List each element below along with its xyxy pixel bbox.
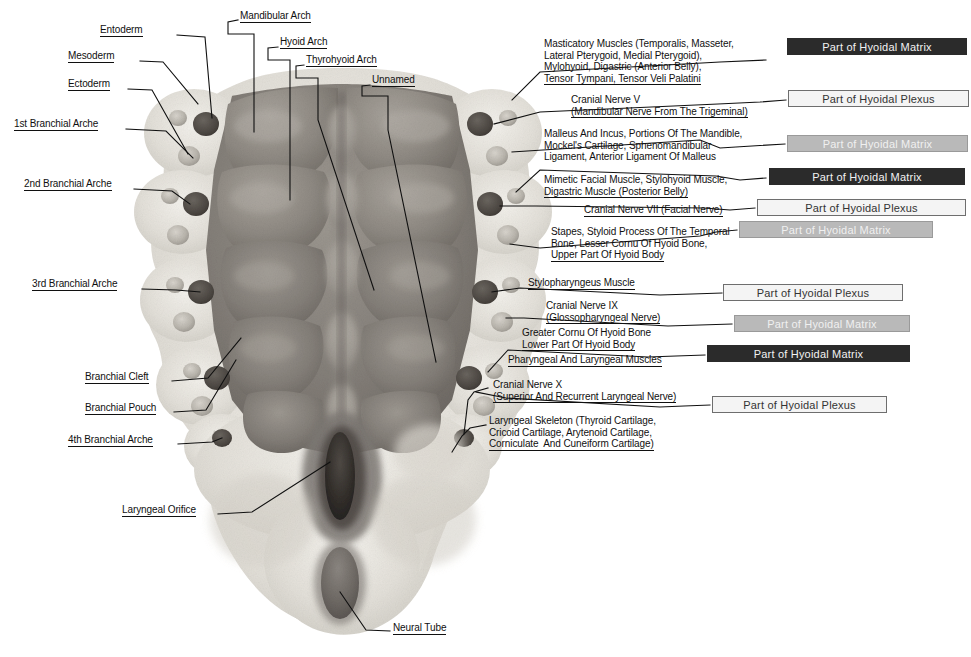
label-line: Upper Part Of Hyoid Body — [551, 249, 664, 262]
badge-dark-badge-1: Part of Hyoidal Matrix — [787, 38, 967, 55]
label-arch-4: 4th Branchial Arche — [68, 434, 153, 447]
label-stapes-styloid: Stapes, Styloid Process Of The TemporalB… — [551, 226, 730, 262]
label-branchial-cleft: Branchial Cleft — [85, 371, 149, 384]
label-branchial-pouch: Branchial Pouch — [85, 402, 156, 415]
label-hyoid-arch: Hyoid Arch — [280, 36, 327, 49]
label-line: Greater Cornu Of Hyoid Bone — [522, 327, 651, 339]
label-line: 4th Branchial Arche — [68, 434, 153, 447]
badge-dark-badge-4: Part of Hyoidal Matrix — [769, 168, 965, 185]
label-line: Stapes, Styloid Process Of The Temporal — [551, 226, 730, 238]
label-line: Tensor Tympani, Tensor Veli Palatini — [544, 73, 701, 86]
badge-light-badge-5: Part of Hyoidal Plexus — [757, 199, 966, 216]
label-line: Pharyngeal And Laryngeal Muscles — [508, 354, 662, 367]
label-line: Ectoderm — [68, 78, 110, 91]
label-laryngeal-orifice: Laryngeal Orifice — [122, 504, 196, 517]
label-line: Thyrohyoid Arch — [306, 54, 377, 67]
label-line: Cranial Nerve VII (Facial Nerve) — [584, 204, 723, 217]
label-line: Unnamed — [372, 74, 415, 87]
label-line: Mandibular Arch — [240, 10, 311, 23]
label-line: Mimetic Facial Muscle, Stylohyoid Muscle… — [544, 174, 727, 186]
label-cranial-nerve-vii: Cranial Nerve VII (Facial Nerve) — [584, 204, 723, 217]
badge-light-badge-7: Part of Hyoidal Plexus — [723, 284, 903, 301]
label-thyrohyoid-arch: Thyrohyoid Arch — [306, 54, 377, 67]
figure-canvas: EntodermMesodermEctoderm1st Branchial Ar… — [0, 0, 971, 657]
label-line: Cranial Nerve IX — [546, 300, 660, 312]
label-line: (Glossopharyngeal Nerve) — [546, 312, 660, 325]
label-line: Bone, Lesser Cornu Of Hyoid Bone, — [551, 238, 730, 250]
label-neural-tube: Neural Tube — [393, 622, 446, 635]
label-malleus-incus: Malleus And Incus, Portions Of The Mandi… — [544, 128, 742, 163]
label-line: Laryngeal Orifice — [122, 504, 196, 517]
badge-mid-badge-3: Part of Hyoidal Matrix — [787, 135, 968, 152]
label-pharyngeal-laryngeal-muscles: Pharyngeal And Laryngeal Muscles — [508, 354, 662, 367]
label-ectoderm: Ectoderm — [68, 78, 110, 91]
label-line: 1st Branchial Arche — [14, 118, 98, 131]
label-line: Lateral Pterygoid, Medial Pterygoid), — [544, 50, 734, 62]
label-line: Branchial Cleft — [85, 371, 149, 384]
badge-mid-badge-8: Part of Hyoidal Matrix — [734, 315, 910, 332]
label-line: Malleus And Incus, Portions Of The Mandi… — [544, 128, 742, 140]
label-line: Neural Tube — [393, 622, 446, 635]
label-entoderm: Entoderm — [100, 24, 143, 37]
badge-dark-badge-9: Part of Hyoidal Matrix — [707, 345, 910, 362]
label-line: Cricoid Cartilage, Arytenoid Cartilage, — [489, 427, 656, 439]
label-arch-1: 1st Branchial Arche — [14, 118, 98, 131]
badge-light-badge-2: Part of Hyoidal Plexus — [788, 90, 969, 107]
label-cranial-nerve-x: Cranial Nerve X(Superior And Recurrent L… — [493, 379, 676, 403]
label-mesoderm: Mesoderm — [68, 50, 114, 63]
label-cranial-nerve-v: Cranial Nerve V(Mandibular Nerve From Th… — [571, 94, 748, 118]
label-greater-cornu: Greater Cornu Of Hyoid BoneLower Part Of… — [522, 327, 651, 351]
label-line: (Mandibular Nerve From The Trigeminal) — [571, 106, 748, 119]
label-masticatory-muscles: Masticatory Muscles (Temporalis, Massete… — [544, 38, 734, 85]
label-line: Hyoid Arch — [280, 36, 327, 49]
label-unnamed-arch: Unnamed — [372, 74, 415, 87]
label-line: Masticatory Muscles (Temporalis, Massete… — [544, 38, 734, 50]
label-line: 2nd Branchial Arche — [24, 178, 112, 191]
label-line: Stylopharyngeus Muscle — [528, 277, 635, 290]
label-line: (Superior And Recurrent Laryngeal Nerve) — [493, 391, 676, 404]
label-laryngeal-skeleton: Laryngeal Skeleton (Thyroid Cartilage,Cr… — [489, 415, 656, 451]
label-line: Ligament, Anterior Ligament Of Malleus — [544, 151, 742, 163]
label-mimetic-facial-muscle: Mimetic Facial Muscle, Stylohyoid Muscle… — [544, 174, 727, 198]
label-line: 3rd Branchial Arche — [32, 278, 117, 291]
label-line: Branchial Pouch — [85, 402, 156, 415]
label-cranial-nerve-ix: Cranial Nerve IX(Glossopharyngeal Nerve) — [546, 300, 660, 324]
label-line: Corniculate And Cuneiform Cartilage) — [489, 438, 654, 451]
label-line: Laryngeal Skeleton (Thyroid Cartilage, — [489, 415, 656, 427]
label-line: Entoderm — [100, 24, 143, 37]
label-line: Mylohyoid, Digastric (Anterior Belly), — [544, 61, 734, 73]
label-line: Cranial Nerve V — [571, 94, 748, 106]
label-arch-3: 3rd Branchial Arche — [32, 278, 117, 291]
label-line: Mesoderm — [68, 50, 114, 63]
badge-mid-badge-6: Part of Hyoidal Matrix — [739, 221, 933, 238]
badge-light-badge-10: Part of Hyoidal Plexus — [712, 396, 887, 413]
label-stylopharyngeus-muscle: Stylopharyngeus Muscle — [528, 277, 635, 290]
label-line: Mockel's Cartilage, Sphenomandibular — [544, 140, 742, 152]
label-mandibular-arch: Mandibular Arch — [240, 10, 311, 23]
label-line: Lower Part Of Hyoid Body — [522, 339, 635, 352]
label-arch-2: 2nd Branchial Arche — [24, 178, 112, 191]
label-line: Cranial Nerve X — [493, 379, 676, 391]
label-line: Digastric Muscle (Posterior Belly) — [544, 186, 688, 199]
